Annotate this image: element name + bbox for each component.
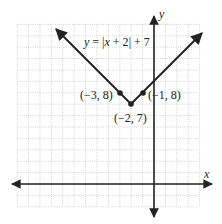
point-neg3-8: [117, 90, 123, 96]
y-axis-label: y: [158, 7, 165, 21]
x-axis-label: x: [203, 167, 210, 181]
point-label-neg1-8: (−1, 8): [148, 88, 181, 102]
grid: [17, 24, 199, 206]
graph: x y y = |x + 2| + 7 (−3, 8) (−2, 7) (−1,…: [0, 0, 222, 224]
equation-label: y = |x + 2| + 7: [83, 35, 150, 49]
point-label-neg3-8: (−3, 8): [80, 88, 113, 102]
point-label-neg2-7: (−2, 7): [114, 111, 147, 125]
point-neg2-7: [128, 101, 134, 107]
point-neg1-8: [140, 90, 146, 96]
